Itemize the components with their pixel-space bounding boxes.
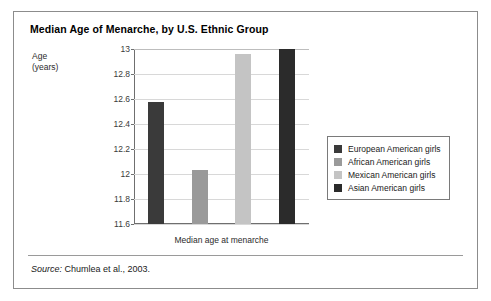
legend-label: Mexican American girls (348, 170, 435, 180)
y-axis-tickmark (131, 199, 134, 200)
legend-item: Mexican American girls (334, 168, 441, 181)
footer-divider (28, 255, 463, 256)
y-axis-tickmark (131, 224, 134, 225)
y-axis-tick-label: 12 (121, 169, 130, 179)
legend-item: Asian American girls (334, 181, 441, 194)
legend-rows: European American girlsAfrican American … (334, 142, 441, 194)
y-axis-tickmark (131, 99, 134, 100)
legend-swatch (334, 184, 342, 192)
bar (235, 54, 251, 224)
plot-area: 11.611.81212.212.412.612.813 Median age … (134, 49, 309, 224)
bar (279, 49, 295, 224)
y-axis-tick-label: 12.2 (113, 144, 130, 154)
legend-item: European American girls (334, 142, 441, 155)
y-axis-tickmark (131, 49, 134, 50)
y-axis-tick-label: 11.6 (114, 219, 130, 229)
y-axis-tickmark (131, 149, 134, 150)
legend: European American girlsAfrican American … (327, 136, 450, 200)
y-axis-title-line2: (years) (32, 62, 58, 73)
y-axis-tick-label: 12.4 (113, 119, 130, 129)
legend-label: Asian American girls (348, 183, 425, 193)
legend-item: African American girls (334, 155, 441, 168)
x-axis-label: Median age at menarche (134, 235, 309, 245)
source-label: Source: (31, 264, 62, 274)
legend-label: African American girls (348, 157, 430, 167)
y-axis-tickmark (131, 74, 134, 75)
y-axis-tick-label: 12.8 (113, 69, 130, 79)
page-title: Median Age of Menarche, by U.S. Ethnic G… (30, 23, 269, 35)
y-axis-tickmark (131, 174, 134, 175)
legend-swatch (334, 158, 342, 166)
bar (192, 170, 208, 224)
figure-panel: Median Age of Menarche, by U.S. Ethnic G… (13, 11, 478, 289)
legend-swatch (334, 145, 342, 153)
legend-swatch (334, 171, 342, 179)
y-axis-tick-label: 12.6 (113, 94, 130, 104)
y-axis-title-line1: Age (32, 51, 58, 62)
legend-label: European American girls (348, 144, 441, 154)
y-axis-tick-label: 11.8 (114, 194, 130, 204)
source-note: Source: Chumlea et al., 2003. (31, 264, 150, 274)
y-axis-tick-label: 13 (121, 44, 130, 54)
y-axis-tickmark (131, 124, 134, 125)
y-axis-title: Age (years) (32, 51, 58, 73)
source-text: Chumlea et al., 2003. (62, 264, 150, 274)
gridline (134, 224, 309, 225)
bar (148, 102, 164, 225)
